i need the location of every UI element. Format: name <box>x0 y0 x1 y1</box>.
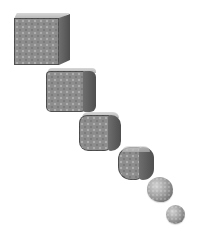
stage-very-rounded-cube <box>117 145 156 182</box>
cube-side-face <box>83 71 96 112</box>
cube-to-sphere-illustration <box>0 0 201 234</box>
cube-front-face <box>79 115 111 151</box>
stage-slightly-rounded-cube <box>45 68 98 114</box>
cube-front-face <box>46 71 85 112</box>
cube-top-face <box>122 146 150 152</box>
stage-near-sphere <box>147 177 173 202</box>
cube-front-face <box>14 18 59 65</box>
cube-side-face <box>59 14 70 65</box>
stage-sphere <box>166 205 185 224</box>
stage-cube <box>13 13 71 67</box>
